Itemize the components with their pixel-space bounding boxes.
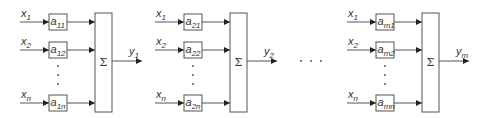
output-label-y2: y2: [263, 45, 275, 60]
vertical-ellipsis-dot: [57, 65, 59, 67]
input-label-x2: x2: [155, 35, 167, 50]
arrowhead-icon: [178, 19, 184, 25]
ellipsis-dot: [310, 60, 312, 62]
input-label-x1: x1: [155, 7, 166, 22]
input-label-x2: x2: [347, 35, 359, 50]
input-label-xn: xn: [20, 88, 32, 103]
vertical-ellipsis-dot: [57, 74, 59, 76]
vertical-ellipsis-dot: [384, 74, 386, 76]
arrowhead-icon: [43, 100, 49, 106]
output-label-y1: y1: [128, 45, 139, 60]
input-label-x1: x1: [347, 7, 358, 22]
arrowhead-icon: [370, 19, 376, 25]
arrowhead-icon: [416, 19, 422, 25]
arrowhead-icon: [224, 47, 230, 53]
arrowhead-icon: [370, 47, 376, 53]
arrowhead-icon: [224, 100, 230, 106]
arrowhead-icon: [43, 47, 49, 53]
output-label-ym: ym: [455, 45, 469, 60]
sigma-symbol: Σ: [100, 56, 108, 69]
input-label-x2: x2: [20, 35, 32, 50]
horizontal-ellipsis: [300, 60, 322, 62]
summation-unit-2: x1a21x2a22xna2nΣy2: [155, 7, 277, 112]
arrowhead-icon: [89, 100, 95, 106]
arrowhead-icon: [416, 47, 422, 53]
arrowhead-icon: [224, 19, 230, 25]
vertical-ellipsis-dot: [192, 65, 194, 67]
arrowhead-icon: [370, 100, 376, 106]
summation-unit-3: x1am1x2am2xnamnΣym: [347, 7, 469, 112]
vertical-ellipsis-dot: [192, 83, 194, 85]
vertical-ellipsis-dot: [384, 65, 386, 67]
vertical-ellipsis-dot: [57, 83, 59, 85]
input-label-xn: xn: [155, 88, 167, 103]
summation-unit-1: x1a11x2a12xna1nΣy1: [20, 7, 142, 112]
arrowhead-icon: [178, 47, 184, 53]
sigma-symbol: Σ: [235, 56, 243, 69]
arrowhead-icon: [178, 100, 184, 106]
input-label-x1: x1: [20, 7, 31, 22]
input-label-xn: xn: [347, 88, 359, 103]
arrowhead-icon: [89, 19, 95, 25]
sigma-symbol: Σ: [427, 56, 435, 69]
ellipsis-dot: [300, 60, 302, 62]
arrowhead-icon: [416, 100, 422, 106]
vertical-ellipsis-dot: [384, 83, 386, 85]
arrowhead-icon: [89, 47, 95, 53]
arrowhead-icon: [43, 19, 49, 25]
weighted-sum-diagram: x1a11x2a12xna1nΣy1x1a21x2a22xna2nΣy2x1am…: [0, 0, 486, 118]
ellipsis-dot: [320, 60, 322, 62]
vertical-ellipsis-dot: [192, 74, 194, 76]
